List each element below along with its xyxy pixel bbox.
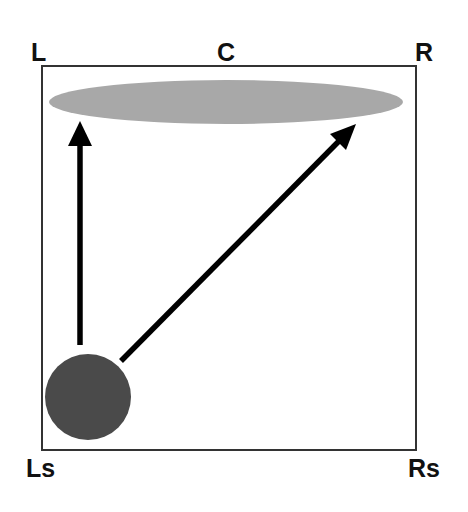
arrow-vertical <box>68 121 92 345</box>
front-sound-image <box>49 80 403 124</box>
arrow-diagonal <box>121 124 356 361</box>
label-center: C <box>217 38 235 66</box>
label-front-right: R <box>415 38 433 66</box>
sound-source <box>45 354 131 440</box>
label-right-surround: Rs <box>408 454 440 482</box>
label-left-surround: Ls <box>26 454 55 482</box>
label-front-left: L <box>31 38 46 66</box>
arrow-vertical-head <box>68 121 92 146</box>
arrow-diagonal-shaft <box>121 137 343 361</box>
speaker-diagram: L C R Ls Rs <box>0 0 468 512</box>
